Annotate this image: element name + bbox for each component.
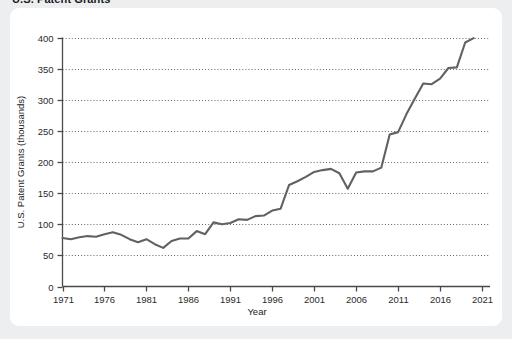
gridlines-group xyxy=(63,39,491,256)
y-tick-label: 150 xyxy=(38,188,54,199)
y-tick-label: 50 xyxy=(43,250,54,261)
x-tick-label: 1971 xyxy=(53,294,74,305)
x-tick-label: 2006 xyxy=(346,294,367,305)
page-title: U.S. Patent Grants xyxy=(12,0,110,5)
y-tick-label: 300 xyxy=(38,95,54,106)
x-tick-label: 1981 xyxy=(136,294,157,305)
y-tick-label: 0 xyxy=(48,282,53,293)
line-chart-svg: 050100150200250300350400 197119761981198… xyxy=(10,8,502,326)
x-tick-label: 1976 xyxy=(94,294,115,305)
x-tick-label: 1986 xyxy=(178,294,199,305)
y-tick-label: 400 xyxy=(38,33,54,44)
y-tick-marks-group xyxy=(58,39,63,288)
x-tick-label: 1991 xyxy=(220,294,241,305)
x-tick-label: 2001 xyxy=(304,294,325,305)
y-tick-label: 250 xyxy=(38,126,54,137)
y-tick-label: 200 xyxy=(38,157,54,168)
x-tick-label: 2016 xyxy=(430,294,451,305)
screenshot-root: U.S. Patent Grants 050100150200250300350… xyxy=(0,0,512,339)
y-tick-label: 350 xyxy=(38,64,54,75)
y-tick-label: 100 xyxy=(38,219,54,230)
x-tick-label: 2021 xyxy=(472,294,493,305)
y-axis-title: U.S. Patent Grants (thousands) xyxy=(15,96,26,229)
chart-card: 050100150200250300350400 197119761981198… xyxy=(10,8,502,326)
x-tick-label: 2011 xyxy=(388,294,408,305)
chart-plot-area: 050100150200250300350400 197119761981198… xyxy=(10,8,502,326)
x-tick-marks-group xyxy=(64,287,483,292)
x-tick-label: 1996 xyxy=(262,294,283,305)
x-axis-title: Year xyxy=(247,306,266,317)
x-tick-labels-group: 1971197619811986199119962001200620112016… xyxy=(53,294,493,305)
y-tick-labels-group: 050100150200250300350400 xyxy=(38,33,54,293)
